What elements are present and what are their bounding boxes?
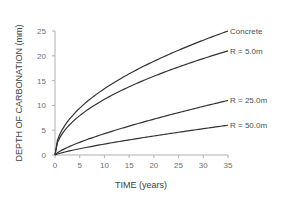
y-tick-label: 20 xyxy=(37,52,46,61)
series-line-0 xyxy=(55,31,228,155)
series-labels: ConcreteR = 5.0mR = 25.0mR = 50.0m xyxy=(230,27,267,130)
x-tick-label: 15 xyxy=(125,161,134,170)
x-tick-label: 35 xyxy=(224,161,233,170)
series-line-2 xyxy=(55,100,228,155)
x-tick-label: 10 xyxy=(100,161,109,170)
x-tick-label: 30 xyxy=(199,161,208,170)
series-label: R = 50.0m xyxy=(230,121,267,130)
y-tick-label: 15 xyxy=(37,77,46,86)
series-line-3 xyxy=(55,125,228,155)
y-tick-label: 5 xyxy=(42,126,47,135)
x-tick-label: 0 xyxy=(53,161,58,170)
y-tick-label: 10 xyxy=(37,101,46,110)
x-tick-label: 5 xyxy=(77,161,82,170)
series-line-1 xyxy=(55,51,228,155)
series-label: R = 5.0m xyxy=(230,47,263,56)
y-axis-title: DEPTH OF CARBONATION (mm) xyxy=(14,25,24,162)
y-tick-label: 0 xyxy=(42,151,47,160)
axes: 051015202530350510152025 xyxy=(37,27,233,170)
series-label: Concrete xyxy=(230,27,263,36)
carbonation-depth-chart: 051015202530350510152025 ConcreteR = 5.0… xyxy=(0,0,281,200)
y-tick-label: 25 xyxy=(37,27,46,36)
x-axis-title: TIME (years) xyxy=(115,180,167,190)
x-tick-label: 25 xyxy=(174,161,183,170)
curves xyxy=(55,31,228,155)
x-tick-label: 20 xyxy=(149,161,158,170)
series-label: R = 25.0m xyxy=(230,96,267,105)
